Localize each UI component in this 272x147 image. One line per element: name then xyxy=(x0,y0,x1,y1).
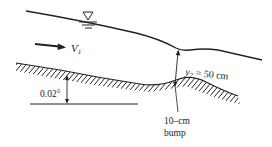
bump-leader-line xyxy=(175,85,178,112)
bump-label-line2: bump xyxy=(164,128,186,138)
slope-angle-label: 0.02° xyxy=(40,89,61,99)
angle-dimension-arrow xyxy=(65,75,69,104)
bump-label-line1: 10–cm xyxy=(164,116,190,126)
free-surface-line xyxy=(26,11,262,60)
velocity-label: V1 xyxy=(71,42,81,56)
water-level-icon xyxy=(79,12,97,28)
open-channel-bump-diagram: V1 0.02° y2 = 50 cm 10–cm bump xyxy=(0,0,272,147)
flow-arrow-icon xyxy=(35,44,66,51)
